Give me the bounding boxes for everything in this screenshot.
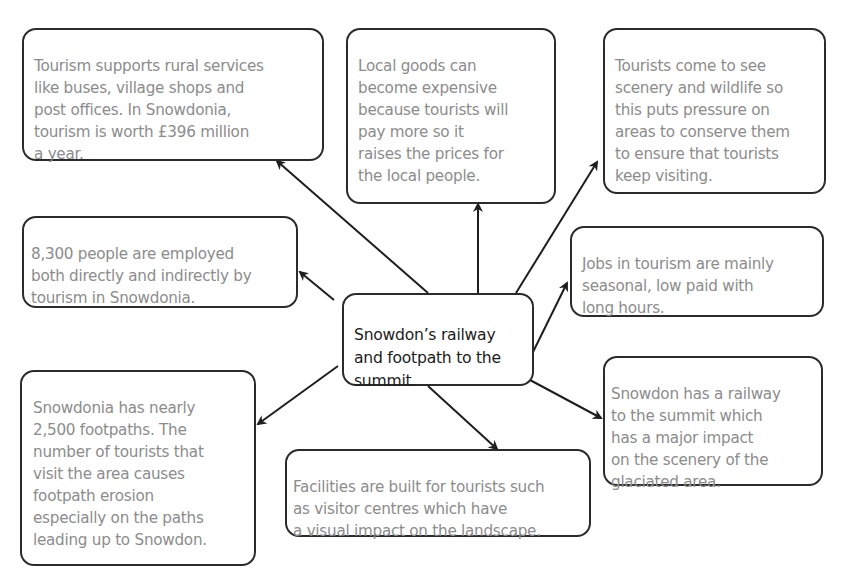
node-local-goods: Local goods can become expensive because…	[346, 28, 556, 204]
central-topic-text: Snowdon’s railway and footpath to the su…	[354, 324, 524, 393]
arrow-to-seasonal-jobs	[533, 283, 567, 352]
arrow-to-railway-impact	[530, 380, 601, 418]
arrow-to-footpath-erosion	[258, 366, 338, 424]
node-text: Jobs in tourism are mainly seasonal, low…	[582, 253, 814, 319]
node-seasonal-jobs: Jobs in tourism are mainly seasonal, low…	[570, 226, 824, 317]
node-text: Tourism supports rural services like bus…	[34, 55, 314, 165]
mind-map-diagram: Tourism supports rural services like bus…	[0, 0, 842, 571]
node-railway-impact: Snowdon has a railway to the summit whic…	[603, 356, 823, 486]
node-text: Local goods can become expensive because…	[358, 55, 546, 187]
node-conservation: Tourists come to see scenery and wildlif…	[603, 28, 826, 194]
node-text: Facilities are built for tourists such a…	[293, 476, 581, 542]
node-text: Snowdonia has nearly 2,500 footpaths. Th…	[33, 397, 246, 551]
node-rural-services: Tourism supports rural services like bus…	[22, 28, 324, 161]
node-footpath-erosion: Snowdonia has nearly 2,500 footpaths. Th…	[20, 370, 256, 566]
node-text: 8,300 people are employed both directly …	[31, 243, 288, 309]
node-employment: 8,300 people are employed both directly …	[22, 216, 298, 308]
node-facilities: Facilities are built for tourists such a…	[285, 449, 591, 537]
central-topic: Snowdon’s railway and footpath to the su…	[342, 293, 534, 386]
node-text: Tourists come to see scenery and wildlif…	[615, 55, 816, 187]
arrow-to-employment	[300, 272, 334, 300]
node-text: Snowdon has a railway to the summit whic…	[611, 383, 813, 493]
